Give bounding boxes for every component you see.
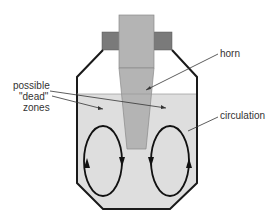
label-possible: possible: [13, 80, 50, 91]
horn-body: [119, 15, 154, 68]
label-dead: "dead": [19, 91, 48, 102]
label-circulation: circulation: [220, 110, 265, 121]
label-horn: horn: [220, 48, 240, 59]
label-zones: zones: [23, 102, 50, 113]
flange-left: [102, 32, 120, 50]
flange-right: [154, 32, 172, 50]
